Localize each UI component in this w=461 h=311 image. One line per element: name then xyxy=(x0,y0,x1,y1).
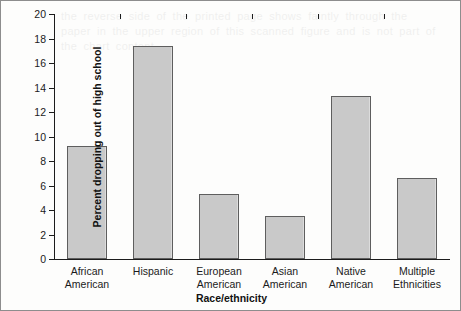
y-tick-label: 4 xyxy=(40,204,46,216)
y-tick-mark xyxy=(49,186,54,187)
x-axis-category-label: Asian American xyxy=(252,265,318,290)
y-tick-label: 16 xyxy=(34,57,46,69)
x-tick-mark xyxy=(318,14,319,19)
y-tick-mark xyxy=(49,161,54,162)
x-tick-mark xyxy=(120,14,121,19)
y-tick-mark xyxy=(49,259,54,260)
y-tick-label: 14 xyxy=(34,82,46,94)
bar xyxy=(331,96,371,259)
y-tick-label: 8 xyxy=(40,155,46,167)
y-tick-mark xyxy=(49,63,54,64)
y-tick-mark xyxy=(49,14,54,15)
x-tick-mark xyxy=(384,14,385,19)
y-tick-mark xyxy=(49,39,54,40)
bar xyxy=(199,194,239,259)
y-tick-label: 0 xyxy=(40,253,46,265)
plot-area: 02468101214161820 xyxy=(54,14,450,259)
y-tick-label: 6 xyxy=(40,180,46,192)
x-axis-category-label: Native American xyxy=(318,265,384,290)
x-tick-mark xyxy=(186,14,187,19)
y-tick-label: 10 xyxy=(34,131,46,143)
y-tick-label: 18 xyxy=(34,33,46,45)
y-tick-mark xyxy=(49,112,54,113)
y-tick-mark xyxy=(49,210,54,211)
bar xyxy=(265,216,305,259)
bar xyxy=(133,46,173,259)
chart-figure: the reverse side of the printed page sho… xyxy=(0,0,461,311)
y-tick-mark xyxy=(49,235,54,236)
x-axis-category-label: African American xyxy=(54,265,120,290)
x-axis-category-label: European American xyxy=(186,265,252,290)
x-axis-line xyxy=(54,259,450,260)
y-tick-mark xyxy=(49,88,54,89)
x-axis-category-label: Multiple Ethnicities xyxy=(384,265,450,290)
y-tick-label: 12 xyxy=(34,106,46,118)
bar xyxy=(397,178,437,259)
y-tick-label: 2 xyxy=(40,229,46,241)
x-tick-mark xyxy=(252,14,253,19)
x-axis-category-label: Hispanic xyxy=(120,265,186,278)
y-tick-label: 20 xyxy=(34,8,46,20)
x-axis-title: Race/ethnicity xyxy=(1,292,461,304)
y-tick-mark xyxy=(49,137,54,138)
y-axis-title: Percent dropping out of high school xyxy=(91,47,103,228)
